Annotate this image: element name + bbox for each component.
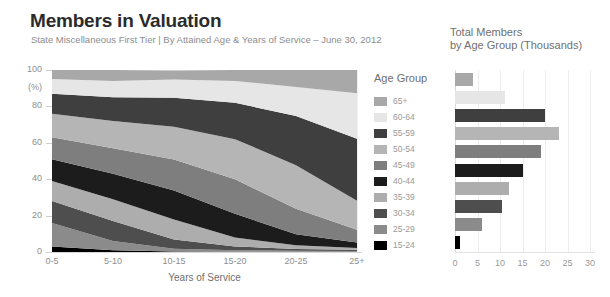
bar-x-tick-label: 10 xyxy=(490,258,510,268)
legend-swatch-icon xyxy=(374,209,387,218)
legend-item-label: 30-34 xyxy=(393,208,415,218)
stacked-area-chart: 020406080100(%) 0-55-1010-1515-2020-2525… xyxy=(0,0,400,297)
x-axis-tick-label: 5-10 xyxy=(91,256,135,266)
legend: Age Group 65+60-6455-5950-5445-4940-4435… xyxy=(367,72,437,253)
bar-x-tick-label: 25 xyxy=(558,258,578,268)
legend-swatch-icon xyxy=(374,145,387,154)
bar-fill xyxy=(455,109,545,122)
y-axis-unit-label: (%) xyxy=(8,82,42,92)
chart-page: Members in Valuation State Miscellaneous… xyxy=(0,0,610,297)
y-axis-tick-label: 80 xyxy=(8,100,42,110)
legend-item[interactable]: 25-29 xyxy=(367,221,437,237)
x-axis-title: Years of Service xyxy=(52,272,357,283)
area-gridline xyxy=(357,70,358,252)
bar-fill xyxy=(455,73,473,86)
legend-item-label: 45-49 xyxy=(393,160,415,170)
legend-item-label: 15-24 xyxy=(393,240,415,250)
legend-item[interactable]: 60-64 xyxy=(367,109,437,125)
bar-chart-title: Total Members by Age Group (Thousands) xyxy=(450,26,582,52)
bar-30-34[interactable] xyxy=(455,200,502,213)
legend-item[interactable]: 65+ xyxy=(367,93,437,109)
bar-45-49[interactable] xyxy=(455,145,541,158)
bar-fill xyxy=(455,200,502,213)
area-series-group xyxy=(52,70,357,252)
bar-fill xyxy=(455,127,559,140)
legend-swatch-icon xyxy=(374,129,387,138)
bar-plot-region xyxy=(455,70,590,252)
bar-60-64[interactable] xyxy=(455,91,505,104)
legend-item[interactable]: 15-24 xyxy=(367,237,437,253)
y-axis-tick-label: 60 xyxy=(8,137,42,147)
y-axis-tick-label: 100 xyxy=(8,64,42,74)
legend-item[interactable]: 45-49 xyxy=(367,157,437,173)
bar-x-tick-label: 5 xyxy=(468,258,488,268)
total-members-bar-chart: Total Members by Age Group (Thousands) 0… xyxy=(430,0,610,297)
legend-item[interactable]: 40-44 xyxy=(367,173,437,189)
x-axis-tick-label: 15-20 xyxy=(213,256,257,266)
legend-item[interactable]: 50-54 xyxy=(367,141,437,157)
bar-fill xyxy=(455,145,541,158)
bar-gridline xyxy=(568,70,569,252)
legend-item-label: 40-44 xyxy=(393,176,415,186)
legend-swatch-icon xyxy=(374,113,387,122)
bar-25-29[interactable] xyxy=(455,218,482,231)
bar-15-24[interactable] xyxy=(455,236,460,249)
y-axis-tick-label: 40 xyxy=(8,173,42,183)
legend-item-label: 65+ xyxy=(393,96,407,106)
bar-x-tick-label: 15 xyxy=(513,258,533,268)
bar-x-tick-label: 0 xyxy=(445,258,465,268)
bar-x-tick-label: 20 xyxy=(535,258,555,268)
bar-x-axis-line xyxy=(455,252,595,253)
legend-item-label: 60-64 xyxy=(393,112,415,122)
legend-swatch-icon xyxy=(374,225,387,234)
legend-swatch-icon xyxy=(374,193,387,202)
bar-chart-title-line1: Total Members xyxy=(450,26,582,39)
area-plot-region xyxy=(52,70,357,252)
bar-gridline xyxy=(523,70,524,252)
y-axis-tick-label: 20 xyxy=(8,210,42,220)
legend-swatch-icon xyxy=(374,97,387,106)
x-axis-tick-label: 0-5 xyxy=(30,256,74,266)
legend-item-label: 25-29 xyxy=(393,224,415,234)
bar-gridline xyxy=(545,70,546,252)
bar-50-54[interactable] xyxy=(455,127,559,140)
bar-40-44[interactable] xyxy=(455,164,523,177)
legend-item-label: 55-59 xyxy=(393,128,415,138)
bar-fill xyxy=(455,91,505,104)
legend-swatch-icon xyxy=(374,177,387,186)
x-axis-tick-label: 25+ xyxy=(335,256,379,266)
bar-x-tick-label: 30 xyxy=(580,258,600,268)
legend-items: 65+60-6455-5950-5445-4940-4435-3930-3425… xyxy=(367,93,437,253)
bar-fill xyxy=(455,182,509,195)
x-axis-tick-label: 20-25 xyxy=(274,256,318,266)
legend-swatch-icon xyxy=(374,161,387,170)
y-axis-tick-label: 0 xyxy=(8,246,42,256)
x-axis-line xyxy=(52,252,362,253)
bar-fill xyxy=(455,218,482,231)
legend-item[interactable]: 55-59 xyxy=(367,125,437,141)
legend-item-label: 50-54 xyxy=(393,144,415,154)
legend-item[interactable]: 30-34 xyxy=(367,205,437,221)
legend-title: Age Group xyxy=(374,72,437,84)
bar-55-59[interactable] xyxy=(455,109,545,122)
legend-item[interactable]: 35-39 xyxy=(367,189,437,205)
bar-35-39[interactable] xyxy=(455,182,509,195)
legend-item-label: 35-39 xyxy=(393,192,415,202)
bar-gridline xyxy=(590,70,591,252)
legend-swatch-icon xyxy=(374,241,387,250)
x-axis-tick-label: 10-15 xyxy=(152,256,196,266)
bar-65+[interactable] xyxy=(455,73,473,86)
bar-fill xyxy=(455,164,523,177)
bar-fill xyxy=(455,236,460,249)
bar-chart-title-line2: by Age Group (Thousands) xyxy=(450,39,582,52)
